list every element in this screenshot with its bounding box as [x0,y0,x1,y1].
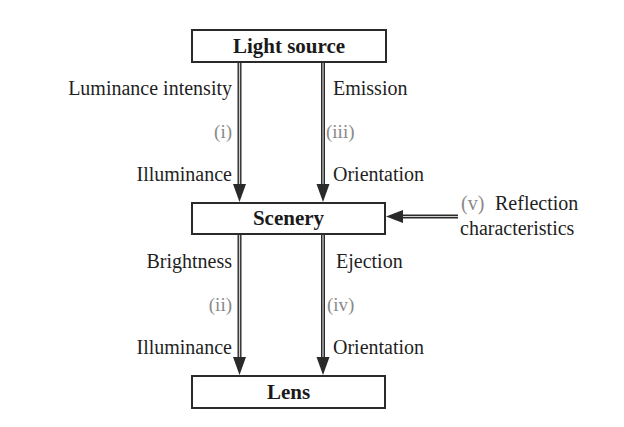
node-lens: Lens [191,375,386,409]
label-reflection: Reflection [495,192,578,214]
index-iv: (iv) [327,294,354,316]
index-iii: (iii) [326,121,355,143]
index-v: (v) [461,192,484,214]
index-ii: (ii) [209,294,232,316]
node-lens-label: Lens [267,380,310,405]
node-scenery: Scenery [191,202,386,235]
label-illuminance-upper: Illuminance [136,163,232,185]
arrow-i [233,62,246,202]
label-luminance-intensity: Luminance intensity [68,77,232,99]
index-i: (i) [214,121,232,143]
arrow-ii [233,234,246,375]
label-orientation-upper: Orientation [333,163,424,185]
node-scenery-label: Scenery [253,206,324,231]
label-brightness: Brightness [146,250,232,272]
node-light-source: Light source [191,29,387,63]
label-orientation-lower: Orientation [333,336,424,358]
arrow-v [386,210,458,223]
label-characteristics: characteristics [460,217,574,239]
label-illuminance-lower: Illuminance [136,336,232,358]
label-ejection: Ejection [336,250,403,272]
diagram-canvas: Light source Scenery Lens Luminance inte… [0,0,624,427]
label-emission: Emission [333,77,407,99]
node-light-source-label: Light source [233,34,345,59]
